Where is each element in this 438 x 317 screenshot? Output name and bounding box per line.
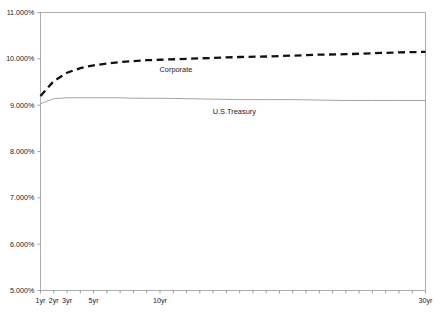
y-axis-ticks — [38, 13, 41, 291]
y-axis-tick-label: 10.000% — [6, 54, 35, 63]
yield-curve-chart: CorporateU.S.Treasury 11.000%10.000%9.00… — [0, 0, 438, 317]
series-annotations: CorporateU.S.Treasury — [159, 65, 256, 117]
series-label-u-s-treasury: U.S.Treasury — [213, 107, 257, 116]
y-axis-tick-label: 7.000% — [10, 193, 35, 202]
y-axis-tick-labels: 11.000%10.000%9.000%8.000%7.000%6.000%5.… — [6, 8, 35, 295]
x-axis-tick-label: 1yr — [36, 296, 47, 305]
chart-plot-area: CorporateU.S.Treasury 11.000%10.000%9.00… — [0, 0, 438, 317]
y-axis-tick-label: 5.000% — [10, 286, 35, 295]
x-axis-tick-label: 5yr — [89, 296, 100, 305]
y-axis-tick-label: 11.000% — [7, 8, 35, 17]
x-axis-tick-labels: 1yr2yr3yr5yr10yr30yr — [36, 296, 434, 305]
y-axis-tick-label: 8.000% — [10, 147, 35, 156]
x-axis-tick-label: 3yr — [62, 296, 73, 305]
series-line-corporate — [41, 52, 426, 96]
y-axis-tick-label: 6.000% — [10, 240, 35, 249]
x-axis-tick-label: 10yr — [153, 296, 168, 305]
y-axis-tick-label: 9.000% — [10, 101, 35, 110]
series-line-treasury — [41, 98, 426, 104]
x-axis-tick-label: 2yr — [49, 296, 60, 305]
series-label-corporate: Corporate — [159, 65, 192, 74]
x-axis-tick-label: 30yr — [419, 296, 434, 305]
x-axis-minor-ticks — [41, 291, 426, 294]
